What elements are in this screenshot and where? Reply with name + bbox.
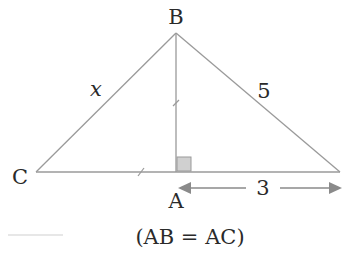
right-angle-marker <box>177 157 191 171</box>
vertex-label-c: C <box>12 165 28 189</box>
side-bc <box>36 33 176 172</box>
arrow-right-icon <box>329 182 342 194</box>
vertex-label-a: A <box>167 189 184 213</box>
vertex-label-b: B <box>168 5 183 29</box>
triangle-diagram: B C A x 5 3 (AB = AC) <box>0 0 346 254</box>
side-label-x: x <box>90 77 102 101</box>
caption: (AB = AC) <box>135 225 244 249</box>
dimension-label-3: 3 <box>256 176 269 200</box>
side-label-5: 5 <box>257 79 270 103</box>
